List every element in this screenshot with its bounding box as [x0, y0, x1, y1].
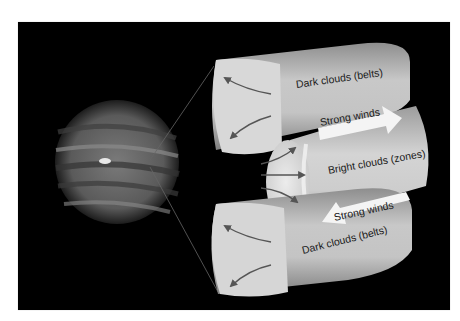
great-spot: [99, 158, 111, 164]
jupiter-planet: [55, 100, 179, 224]
diagram-panel: Dark clouds (belts) Strong winds Bright …: [18, 22, 450, 310]
zoom-line-top: [150, 66, 214, 160]
zoom-line-bottom: [150, 167, 218, 292]
